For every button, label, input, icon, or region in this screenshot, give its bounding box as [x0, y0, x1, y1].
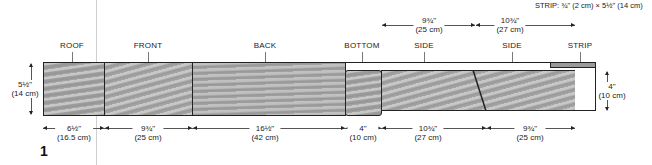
dim-imperial: 16½" — [251, 124, 278, 133]
dim-imperial: 5½" — [11, 80, 38, 89]
arrow-right-icon — [482, 126, 486, 130]
dim-front-length: 9¾" (25 cm) — [132, 124, 163, 142]
label-side-2: SIDE — [502, 41, 521, 50]
dim-metric: (14 cm) — [11, 89, 38, 98]
arrow-up-icon — [29, 63, 33, 67]
dim-metric: (27 cm) — [414, 133, 441, 142]
dim-imperial: 10¾" — [496, 16, 523, 25]
label-side-1: SIDE — [414, 41, 433, 50]
dim-metric: (27 cm) — [496, 25, 523, 34]
dim-roof-length: 6½" (16.5 cm) — [55, 124, 93, 142]
dim-imperial: 9¾" — [134, 124, 161, 133]
piece-bottom — [345, 70, 382, 116]
label-front: FRONT — [134, 41, 163, 50]
dim-metric: (25 cm) — [134, 133, 161, 142]
dim-top-side2: 10¾" (27 cm) — [494, 16, 525, 34]
offcut-right — [575, 68, 596, 111]
arrow-right-icon — [100, 126, 104, 130]
dim-side1-length: 10¾" (27 cm) — [412, 124, 443, 142]
arrow-left-icon — [382, 126, 386, 130]
arrow-up-icon — [605, 71, 609, 75]
arrow-left-icon — [193, 126, 197, 130]
arrow-right-icon — [188, 126, 192, 130]
dim-imperial: 6½" — [57, 124, 91, 133]
dim-line-bottom — [43, 128, 575, 129]
label-bottom: BOTTOM — [344, 41, 379, 50]
dim-metric: (10 cm) — [349, 133, 376, 142]
arrow-down-icon — [605, 107, 609, 111]
label-back: BACK — [254, 41, 277, 50]
arrow-left-icon — [476, 23, 480, 27]
strip-dimension-note: STRIP: ¾" (2 cm) × 5½" (14 cm) — [535, 1, 643, 10]
dim-imperial: 4" — [598, 82, 625, 91]
arrow-down-icon — [29, 111, 33, 115]
arrow-right-icon — [571, 126, 575, 130]
arrow-right-icon — [471, 23, 475, 27]
label-roof: ROOF — [60, 41, 84, 50]
piece-sides — [381, 70, 576, 111]
dim-imperial: 9¾" — [415, 16, 442, 25]
dim-imperial: 4" — [349, 124, 376, 133]
arrow-left-icon — [43, 126, 47, 130]
arrow-right-icon — [571, 23, 575, 27]
arrow-left-icon — [487, 126, 491, 130]
leader-strip — [580, 52, 581, 62]
diagonal-cut-line — [381, 70, 576, 111]
arrow-left-icon — [105, 126, 109, 130]
arrow-right-icon — [341, 126, 345, 130]
dim-metric: (10 cm) — [598, 91, 625, 100]
piece-back — [192, 62, 346, 116]
dim-bottom-length: 4" (10 cm) — [347, 124, 378, 142]
dim-side2-length: 9¾" (25 cm) — [514, 124, 545, 142]
dim-right-height: 4" (10 cm) — [596, 82, 627, 100]
piece-roof — [43, 62, 105, 116]
dim-top-side1: 9¾" (25 cm) — [413, 16, 444, 34]
dim-imperial: 10¾" — [414, 124, 441, 133]
dim-board-height: 5½" (14 cm) — [9, 80, 40, 98]
dim-back-length: 16½" (42 cm) — [249, 124, 280, 142]
dim-metric: (42 cm) — [251, 133, 278, 142]
piece-front — [104, 62, 193, 116]
dim-imperial: 9¾" — [516, 124, 543, 133]
figure-number: 1 — [40, 143, 48, 159]
dim-metric: (25 cm) — [516, 133, 543, 142]
arrow-left-icon — [382, 23, 386, 27]
label-strip: STRIP — [568, 41, 593, 50]
dim-metric: (16.5 cm) — [57, 133, 91, 142]
dim-metric: (25 cm) — [415, 25, 442, 34]
